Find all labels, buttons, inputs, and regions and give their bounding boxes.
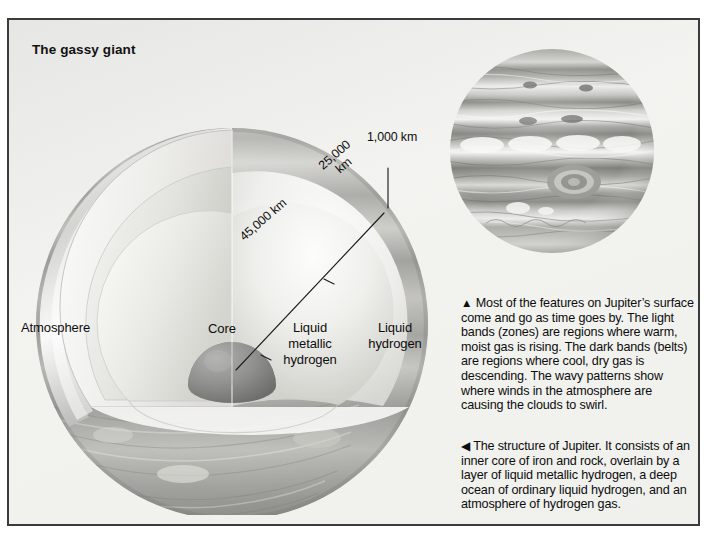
figure-panel: The gassy giant	[7, 18, 700, 526]
jupiter-surface-photograph	[446, 45, 658, 257]
dimension-label-1000-km: 1,000 km	[367, 130, 417, 144]
caption-jupiter-structure: ◀ The structure of Jupiter. It consists …	[461, 439, 697, 512]
caption-jupiter-surface: ▲ Most of the features on Jupiter’s surf…	[461, 296, 697, 413]
caption-left-arrow-icon: ◀	[461, 440, 470, 452]
caption-bottom-text: The structure of Jupiter. It consists of…	[461, 439, 690, 511]
jupiter-cutaway-diagram	[17, 105, 447, 515]
diagram-label-liquid-metallic-hydrogen: Liquid metallic hydrogen	[267, 320, 353, 368]
caption-up-arrow-icon: ▲	[461, 297, 472, 309]
diagram-label-core: Core	[208, 321, 236, 337]
page-title: The gassy giant	[32, 42, 136, 57]
caption-top-text: Most of the features on Jupiter’s surfac…	[461, 296, 694, 412]
jupiter-disc	[446, 45, 658, 257]
diagram-label-liquid-hydrogen: Liquid hydrogen	[354, 320, 436, 352]
figure-page: The gassy giant	[0, 0, 721, 543]
diagram-label-atmosphere: Atmosphere	[21, 320, 90, 336]
